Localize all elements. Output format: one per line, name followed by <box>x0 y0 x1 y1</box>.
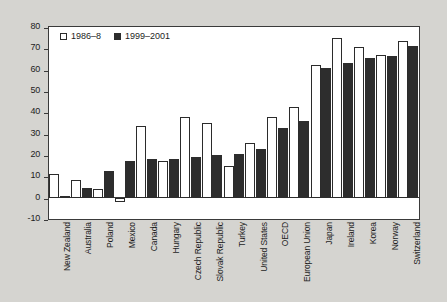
bar-new <box>278 128 288 198</box>
y-axis: 80706050403020100-10 <box>0 26 48 220</box>
open-square-icon <box>60 33 67 40</box>
bar-old <box>376 55 386 198</box>
bar-old <box>289 107 299 198</box>
bar-new <box>60 196 70 198</box>
bar-new <box>256 149 266 198</box>
x-axis-tick-label: Korea <box>368 222 378 244</box>
x-axis-tick-label: Poland <box>105 222 115 248</box>
bar-group <box>332 27 354 219</box>
y-axis-tick-label: 50 <box>30 85 40 95</box>
bar-group <box>136 27 158 219</box>
bar-group <box>93 27 115 219</box>
bar-new <box>125 161 135 198</box>
bar-new <box>212 155 222 198</box>
bar-old <box>202 123 212 198</box>
legend-label-new: 1999–2001 <box>125 31 170 41</box>
x-axis-tick-label: Turkey <box>237 222 247 247</box>
bar-group <box>158 27 180 219</box>
x-axis-tick-label: Mexico <box>127 222 137 248</box>
x-axis-tick-label: Czech Republic <box>193 222 203 280</box>
bar-group <box>223 27 245 219</box>
x-axis-tick-label: Slovak Republic <box>215 222 225 281</box>
y-axis-tick-label: 30 <box>30 128 40 138</box>
y-axis-tick-label: 10 <box>30 170 40 180</box>
bar-new <box>299 121 309 198</box>
x-axis-tick-label: Norway <box>390 222 400 250</box>
x-axis-tick-label: Japan <box>324 222 334 245</box>
y-axis-tick-label: 0 <box>35 192 40 202</box>
legend-label-old: 1986–8 <box>71 31 101 41</box>
bar-old <box>136 126 146 197</box>
x-axis-tick-label: OECD <box>280 222 290 246</box>
bar-new <box>343 63 353 198</box>
x-axis-tick-label: European Union <box>302 222 312 282</box>
bar-group <box>267 27 289 219</box>
bar-old <box>93 189 103 198</box>
y-axis-tick-label: -10 <box>28 213 40 223</box>
bar-old <box>224 166 234 197</box>
bar-old <box>115 198 125 202</box>
legend-item-new: 1999–2001 <box>114 31 170 41</box>
x-axis-tick-label: New Zealand <box>62 222 72 271</box>
chart-legend: 1986–8 1999–2001 <box>60 31 170 41</box>
bar-old <box>158 161 168 197</box>
y-axis-tick-mark <box>44 220 48 221</box>
x-axis-tick-label: Ireland <box>346 222 356 247</box>
bar-group <box>114 27 136 219</box>
bar-new <box>408 46 418 197</box>
chart-figure: 80706050403020100-10 1986–8 1999–2001 Ne… <box>0 0 447 302</box>
bar-new <box>147 159 157 197</box>
x-axis-tick-label: Canada <box>149 222 159 251</box>
y-axis-tick-label: 70 <box>30 42 40 52</box>
bar-groups <box>49 27 419 219</box>
bar-new <box>387 56 397 197</box>
bar-group <box>49 27 71 219</box>
bar-old <box>245 143 255 197</box>
bar-old <box>49 174 59 197</box>
filled-square-icon <box>114 33 121 40</box>
y-axis-tick-label: 40 <box>30 106 40 116</box>
plot-area <box>48 26 420 220</box>
y-axis-tick-label: 80 <box>30 21 40 31</box>
bar-group <box>310 27 332 219</box>
bar-group <box>71 27 93 219</box>
bar-new <box>82 188 92 198</box>
bar-new <box>234 154 244 198</box>
x-axis-labels: New ZealandAustraliaPolandMexicoCanadaHu… <box>48 222 420 302</box>
bar-new <box>191 157 201 198</box>
y-axis-tick-label: 20 <box>30 149 40 159</box>
bar-group <box>375 27 397 219</box>
bar-old <box>311 65 321 197</box>
bar-new <box>321 68 331 198</box>
bar-new <box>104 171 114 197</box>
x-axis-tick-label: Australia <box>83 222 93 254</box>
bar-group <box>397 27 419 219</box>
x-axis-tick-label: Hungary <box>171 222 181 253</box>
bar-group <box>288 27 310 219</box>
bar-group <box>180 27 202 219</box>
y-axis-tick-label: 60 <box>30 64 40 74</box>
bar-old <box>180 117 190 198</box>
bar-old <box>332 38 342 198</box>
bar-group <box>245 27 267 219</box>
bar-old <box>398 41 408 198</box>
bar-new <box>365 58 375 198</box>
legend-item-old: 1986–8 <box>60 31 101 41</box>
bar-old <box>71 180 81 198</box>
bar-new <box>169 159 179 198</box>
bar-old <box>267 117 277 198</box>
x-axis-tick-label: Switzerland <box>412 222 422 265</box>
bar-group <box>354 27 376 219</box>
bar-group <box>201 27 223 219</box>
bar-old <box>354 47 364 197</box>
x-axis-tick-label: United States <box>259 222 269 272</box>
